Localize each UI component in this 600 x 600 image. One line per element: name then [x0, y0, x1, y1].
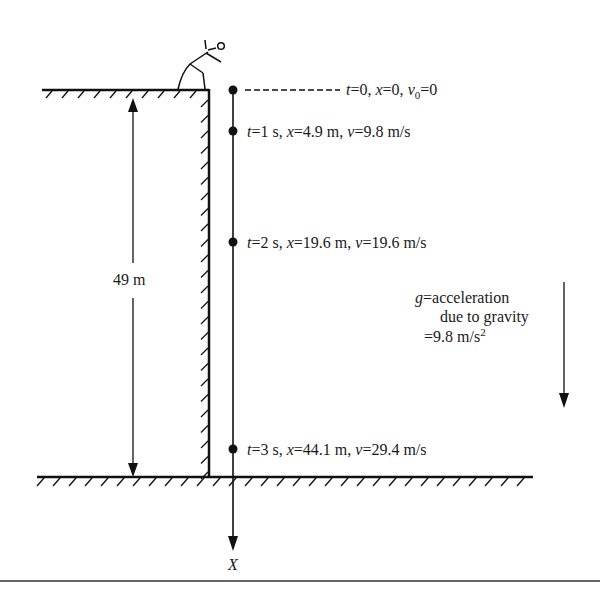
gravity-arrow-icon [559, 282, 569, 408]
point-label-t0: t=0, x=0, v0=0 [346, 82, 437, 101]
free-fall-diagram: 49 m t=0, x=0, v0=0 t=1 s, x=4.9 m, v=9.… [0, 0, 600, 600]
person-figure-icon [178, 40, 224, 89]
position-dot-t0 [229, 86, 238, 95]
position-dot-t1 [229, 127, 238, 136]
point-label-t2: t=2 s, x=19.6 m, v=19.6 m/s [247, 235, 427, 251]
point-label-t3: t=3 s, x=44.1 m, v=29.4 m/s [247, 442, 427, 458]
gravity-line1: g=acceleration [415, 290, 509, 306]
diagram-graphics [0, 0, 600, 600]
axis-label-x: X [228, 557, 238, 573]
ground [37, 477, 533, 486]
fall-axis [228, 86, 340, 552]
position-dot-t3 [229, 445, 238, 454]
gravity-line3: =9.8 m/s2 [424, 327, 486, 345]
point-label-t1: t=1 s, x=4.9 m, v=9.8 m/s [247, 124, 411, 140]
gravity-line2: due to gravity [440, 309, 529, 325]
height-label: 49 m [113, 272, 145, 288]
position-dot-t2 [229, 238, 238, 247]
cliff-top [42, 90, 209, 98]
cliff-wall [201, 89, 209, 479]
